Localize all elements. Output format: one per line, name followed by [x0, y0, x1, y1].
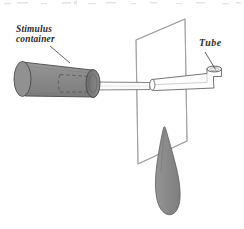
label-stimulus-container-line2: container [16, 34, 55, 44]
stimulus-container [14, 62, 100, 98]
cylinder-left-cap [14, 62, 31, 97]
cylinder-right-cap [86, 70, 100, 98]
label-stimulus-container: Stimulus container [16, 24, 55, 44]
label-tube: Tube [199, 38, 222, 49]
label-stimulus-container-line1: Stimulus [16, 24, 55, 34]
tube-left-segment [96, 82, 150, 90]
cylinder-body [22, 62, 95, 97]
figure-container: Stimulus container Tube [0, 0, 244, 229]
tube-left-opening-ellipse [150, 79, 155, 90]
tube-top-opening-bore [210, 68, 219, 71]
